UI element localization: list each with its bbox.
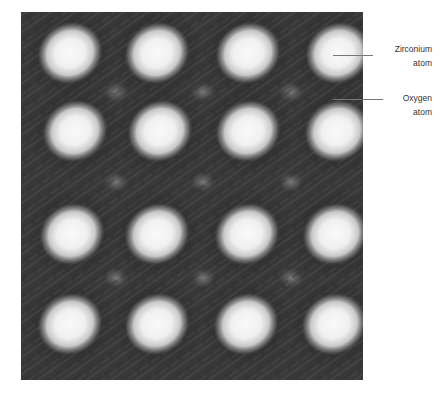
oxygen-atom-label: Oxygen atom (403, 91, 432, 119)
oxygen-leader-line (333, 99, 383, 100)
zirconium-atom-label: Zirconium atom (395, 42, 432, 70)
lattice-graphic (21, 12, 363, 380)
oxygen-label-line2: atom (403, 105, 432, 119)
zirconium-label-line2: atom (395, 56, 432, 70)
zirconium-label-line1: Zirconium (395, 42, 432, 56)
oxygen-label-line1: Oxygen (403, 91, 432, 105)
micrograph-image (21, 12, 363, 380)
zirconium-leader-line (333, 55, 373, 56)
